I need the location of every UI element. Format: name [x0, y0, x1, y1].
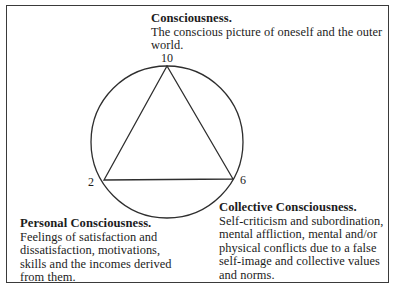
consciousness-text-line: world.	[151, 39, 382, 53]
outer-circle	[91, 66, 243, 218]
personal-text-line: from them.	[20, 271, 172, 285]
personal-consciousness-block: Personal Consciousness. Feelings of sati…	[20, 217, 172, 285]
consciousness-title: Consciousness.	[151, 12, 382, 26]
personal-text-line: dissatisfaction, motivations,	[20, 244, 172, 258]
collective-text-line: self-image and collective values	[219, 255, 383, 269]
consciousness-text-line: The conscious picture of oneself and the…	[151, 26, 382, 40]
collective-text-line: and norms.	[219, 269, 383, 283]
personal-text-line: skills and the incomes derived	[20, 258, 172, 272]
collective-consciousness-title: Collective Consciousness.	[219, 201, 383, 215]
collective-text-line: Self-criticism and subordination,	[219, 215, 383, 229]
vertex-label-left: 2	[88, 176, 94, 188]
collective-text-line: mental affliction, mental and/or	[219, 228, 383, 242]
inner-triangle	[104, 66, 233, 180]
collective-text-line: physical conflicts due to a false	[219, 242, 383, 256]
collective-consciousness-block: Collective Consciousness. Self-criticism…	[219, 201, 383, 283]
personal-consciousness-title: Personal Consciousness.	[20, 217, 172, 231]
vertex-label-top: 10	[161, 52, 173, 64]
personal-text-line: Feelings of satisfaction and	[20, 231, 172, 245]
vertex-label-right: 6	[240, 174, 246, 186]
consciousness-block: Consciousness. The conscious picture of …	[151, 12, 382, 53]
